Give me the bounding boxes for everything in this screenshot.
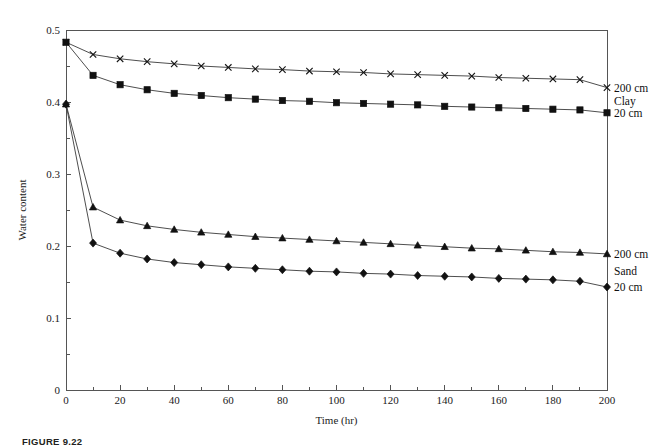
y-tick-label: 0.3 [46, 168, 60, 180]
marker-diamond [279, 266, 286, 274]
marker-square [63, 39, 69, 45]
x-tick-label: 40 [169, 394, 181, 406]
marker-square [550, 106, 556, 112]
legend-label-clay-200cm: 200 cm [614, 82, 648, 94]
marker-square [252, 96, 258, 102]
x-tick-label: 120 [382, 394, 399, 406]
figure-container: 00.10.20.30.40.5020406080100120140160180… [0, 0, 664, 447]
marker-diamond [495, 274, 502, 282]
marker-triangle [117, 216, 124, 222]
marker-diamond [225, 263, 232, 271]
marker-square [171, 90, 177, 96]
x-tick-label: 20 [115, 394, 127, 406]
marker-square [333, 100, 339, 106]
series-path [66, 104, 607, 254]
marker-square [198, 92, 204, 98]
marker-square [469, 104, 475, 110]
x-tick-label: 160 [491, 394, 508, 406]
marker-square [604, 110, 610, 116]
marker-square [90, 72, 96, 78]
marker-triangle [89, 204, 96, 210]
marker-square [415, 102, 421, 108]
marker-diamond [387, 270, 394, 278]
y-tick-label: 0.4 [46, 96, 60, 108]
x-tick-label: 100 [328, 394, 345, 406]
marker-diamond [549, 276, 556, 284]
series-sand-200-cm [62, 101, 610, 257]
water-content-vs-time-chart: 00.10.20.30.40.5020406080100120140160180… [0, 0, 664, 447]
marker-diamond [441, 272, 448, 280]
legend-label-sand-200cm: 200 cm [614, 248, 648, 260]
y-tick-label: 0 [55, 384, 61, 396]
marker-diamond [333, 268, 340, 276]
x-axis-title: Time (hr) [315, 414, 357, 427]
series-sand-20-cm [63, 100, 611, 291]
x-tick-label: 0 [63, 394, 69, 406]
y-tick-label: 0.5 [46, 24, 60, 36]
marker-square [577, 107, 583, 113]
marker-diamond [252, 264, 259, 272]
marker-diamond [306, 267, 313, 275]
plot-frame [66, 30, 607, 390]
marker-diamond [198, 261, 205, 269]
series-clay-200-cm [63, 39, 610, 91]
marker-square [442, 103, 448, 109]
marker-square [306, 98, 312, 104]
marker-diamond [522, 275, 529, 283]
marker-diamond [171, 259, 178, 267]
x-tick-label: 60 [223, 394, 235, 406]
marker-square [144, 87, 150, 93]
marker-square [225, 95, 231, 101]
marker-square [523, 105, 529, 111]
marker-diamond [117, 249, 124, 257]
marker-diamond [576, 277, 583, 285]
series-clay-20-cm [63, 39, 610, 116]
y-tick-label: 0.1 [46, 312, 60, 324]
y-tick-label: 0.2 [46, 240, 60, 252]
marker-square [360, 100, 366, 106]
x-tick-label: 180 [545, 394, 562, 406]
marker-square [117, 82, 123, 88]
figure-caption: FIGURE 9.22 [22, 436, 82, 447]
x-tick-label: 80 [277, 394, 289, 406]
marker-square [388, 101, 394, 107]
x-tick-label: 200 [599, 394, 616, 406]
series-path [66, 42, 607, 87]
legend-group-sand: Sand [614, 265, 637, 277]
marker-diamond [468, 273, 475, 281]
x-tick-label: 140 [436, 394, 453, 406]
legend-label-clay-20cm: 20 cm [614, 107, 642, 119]
y-axis-title: Water content [16, 179, 28, 240]
marker-diamond [360, 269, 367, 277]
marker-diamond [144, 255, 151, 263]
legend-label-sand-20cm: 20 cm [614, 281, 642, 293]
marker-square [279, 97, 285, 103]
marker-diamond [90, 239, 97, 247]
marker-square [496, 105, 502, 111]
marker-diamond [604, 283, 611, 291]
marker-diamond [414, 272, 421, 280]
